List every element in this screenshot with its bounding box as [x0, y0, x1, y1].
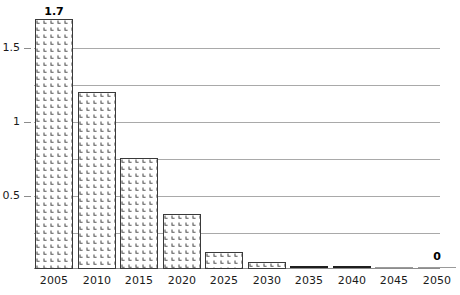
gridline-1-25	[34, 85, 440, 86]
bar-2040	[333, 266, 371, 268]
xtick-label-2020: 2020	[158, 274, 206, 287]
bar-2045	[375, 267, 413, 268]
bar-2020	[163, 214, 201, 269]
bar-2025	[205, 252, 243, 269]
ytick-label-0-5: 0.5	[0, 189, 20, 202]
plot-area: 1.5 1 0.5 1.7 0 2005 2010 2015 2020	[0, 0, 460, 295]
xtick-label-2035: 2035	[285, 274, 333, 287]
bar-2015	[120, 158, 158, 269]
bar-2010	[78, 92, 116, 269]
ytick-dash-1-5	[24, 48, 31, 49]
bar-2030	[248, 262, 286, 269]
xtick-label-2040: 2040	[328, 274, 376, 287]
ytick-dash-1-0	[24, 122, 31, 123]
bar-2005	[35, 19, 73, 269]
bar-label-2005: 1.7	[34, 5, 74, 18]
xtick-label-2050: 2050	[413, 274, 460, 287]
xtick-label-2025: 2025	[200, 274, 248, 287]
xtick-label-2010: 2010	[73, 274, 121, 287]
xtick-label-2005: 2005	[30, 274, 78, 287]
ytick-label-1-5: 1.5	[0, 41, 20, 54]
xtick-label-2015: 2015	[115, 274, 163, 287]
ytick-label-1-0: 1	[0, 115, 20, 128]
xtick-label-2030: 2030	[243, 274, 291, 287]
gridline-1-5	[34, 48, 440, 49]
ytick-dash-0-5	[24, 196, 31, 197]
bar-label-2050: 0	[417, 250, 457, 263]
xtick-label-2045: 2045	[370, 274, 418, 287]
bar-chart: 1.5 1 0.5 1.7 0 2005 2010 2015 2020	[0, 0, 460, 295]
bar-2050	[418, 267, 456, 268]
bar-2035	[290, 266, 328, 268]
